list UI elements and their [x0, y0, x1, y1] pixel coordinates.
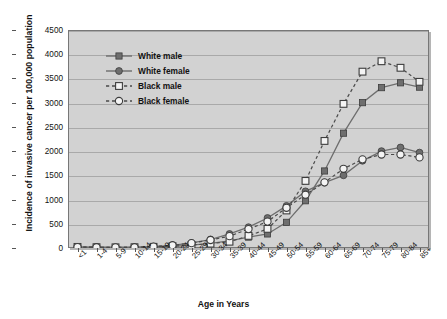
gridline: [69, 176, 428, 177]
y-axis-tick-label: 3500: [23, 74, 63, 83]
legend-label: Black male: [138, 81, 182, 91]
y-axis-tick: [12, 54, 16, 55]
gridline: [69, 201, 428, 202]
chart-figure: Incidence of invasive cancer per 100,000…: [0, 0, 447, 319]
y-axis-tick: [12, 30, 16, 31]
y-axis-tick: [12, 103, 16, 104]
y-axis-tick-label: 1500: [23, 171, 63, 180]
y-axis-tick: [12, 151, 16, 152]
legend-label: Black female: [138, 96, 189, 106]
y-axis-tick: [12, 78, 16, 79]
y-axis-tick-label: 500: [23, 219, 63, 228]
legend-label: White female: [138, 66, 190, 76]
gridline: [69, 152, 428, 153]
y-axis-tick-label: 3000: [23, 98, 63, 107]
y-axis-tick-label: 2000: [23, 147, 63, 156]
x-axis-title: Age in Years: [0, 299, 447, 309]
y-axis-tick: [12, 175, 16, 176]
chart-legend: White maleWhite femaleBlack maleBlack fe…: [104, 48, 244, 108]
y-axis-tick-label: 1000: [23, 195, 63, 204]
y-axis-tick: [12, 224, 16, 225]
y-axis-tick: [12, 127, 16, 128]
legend-marker-icon: [104, 64, 134, 78]
gridline: [69, 31, 428, 32]
legend-item-black-male[interactable]: Black male: [104, 78, 244, 93]
legend-label: White male: [138, 51, 182, 61]
legend-item-black-female[interactable]: Black female: [104, 93, 244, 108]
legend-item-white-male[interactable]: White male: [104, 48, 244, 63]
gridline: [69, 128, 428, 129]
y-axis-tick-label: 4500: [23, 26, 63, 35]
legend-marker-icon: [104, 79, 134, 93]
y-axis-tick: [12, 200, 16, 201]
legend-item-white-female[interactable]: White female: [104, 63, 244, 78]
y-axis-tick-label: 0: [23, 244, 63, 253]
y-axis-tick-label: 2500: [23, 122, 63, 131]
y-axis-tick-label: 4000: [23, 50, 63, 59]
legend-marker-icon: [104, 49, 134, 63]
y-axis-tick: [12, 248, 16, 249]
legend-marker-icon: [104, 94, 134, 108]
gridline: [69, 225, 428, 226]
